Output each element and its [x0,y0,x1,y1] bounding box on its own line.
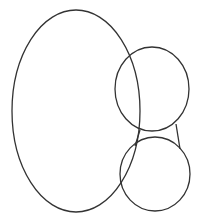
diagram-canvas [0,0,201,219]
left-connector [135,130,140,146]
top-circle [115,47,189,131]
shapes-group [12,10,190,212]
